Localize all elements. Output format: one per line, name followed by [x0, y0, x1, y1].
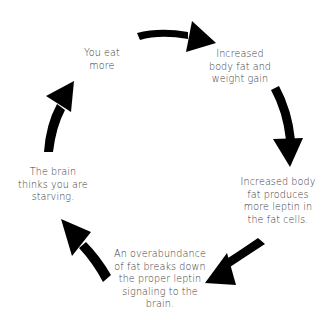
leptin-resistance-cycle-diagram: You eat more Increased body fat and weig… — [0, 0, 331, 321]
node-line: Increased — [200, 48, 280, 61]
node-line: the proper leptin — [108, 273, 212, 286]
node-line: brain. — [108, 298, 212, 311]
arrow-fat-to-leptin-icon — [271, 86, 303, 167]
node-line: body fat and — [200, 61, 280, 74]
node-you-eat-more: You eat more — [72, 47, 132, 72]
node-more-leptin: Increased body fat produces more leptin … — [232, 176, 324, 226]
node-line: weight gain — [200, 73, 280, 86]
node-line: fat produces — [232, 189, 324, 202]
node-line: more — [72, 60, 132, 73]
node-line: the fat cells. — [232, 214, 324, 227]
node-line: more leptin in — [232, 201, 324, 214]
node-line: starving. — [10, 191, 96, 204]
node-line: of fat breaks down — [108, 261, 212, 274]
node-line: You eat — [72, 47, 132, 60]
arrow-brain-to-eat-icon — [44, 81, 74, 152]
node-increased-body-fat: Increased body fat and weight gain — [200, 48, 280, 86]
arrow-leptin-to-signaling-icon — [205, 238, 265, 285]
arrow-signaling-to-brain-icon — [61, 219, 111, 282]
node-line: The brain — [10, 166, 96, 179]
node-line: An overabundance — [108, 248, 212, 261]
node-brain-starving: The brain thinks you are starving. — [10, 166, 96, 204]
node-line: signaling to the — [108, 286, 212, 299]
node-signaling-breakdown: An overabundance of fat breaks down the … — [108, 248, 212, 311]
node-line: thinks you are — [10, 179, 96, 192]
node-line: Increased body — [232, 176, 324, 189]
